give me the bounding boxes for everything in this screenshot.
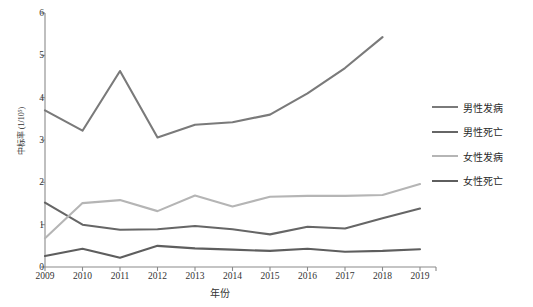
y-tick-label: 2 [22,177,44,187]
chart-container: 中标率 (1/10⁵) 0123456 20092010201120122013… [0,0,533,307]
x-tick-label: 2010 [63,271,103,282]
y-tick-label: 1 [22,220,44,230]
legend-item-1[interactable]: 男性死亡 [432,120,533,145]
legend-line-swatch [432,180,458,182]
legend-item-label: 女性发病 [463,149,503,164]
legend-line-swatch [432,106,458,108]
legend-item-3[interactable]: 女性死亡 [432,169,533,194]
x-tick-label: 2018 [363,271,403,282]
x-tick-label: 2009 [25,271,65,282]
y-axis-tick-labels: 0123456 [22,0,44,307]
legend-item-label: 男性死亡 [463,124,503,139]
chart-legend: 男性发病男性死亡女性发病女性死亡 [432,95,533,193]
x-axis-title: 年份 [0,285,440,300]
x-tick-label: 2013 [175,271,215,282]
y-tick-label: 5 [22,50,44,60]
x-tick-label: 2012 [138,271,178,282]
x-tick-label: 2016 [288,271,328,282]
legend-item-0[interactable]: 男性发病 [432,95,533,120]
legend-line-swatch [432,155,458,157]
y-tick-label: 6 [22,8,44,18]
series-line-3 [45,246,420,258]
x-tick-label: 2014 [213,271,253,282]
x-tick-label: 2017 [325,271,365,282]
legend-item-label: 男性发病 [463,100,503,115]
legend-line-swatch [432,131,458,133]
series-line-0 [45,37,383,137]
x-tick-label: 2011 [100,271,140,282]
y-tick-label: 3 [22,135,44,145]
y-tick-label: 4 [22,93,44,103]
legend-item-label: 女性死亡 [463,173,503,188]
x-tick-label: 2019 [400,271,440,282]
legend-item-2[interactable]: 女性发病 [432,144,533,169]
x-tick-label: 2015 [250,271,290,282]
